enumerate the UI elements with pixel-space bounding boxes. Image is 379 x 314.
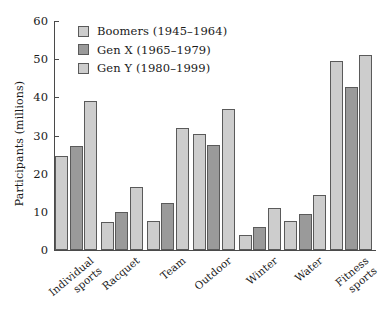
x-axis-line <box>54 250 376 251</box>
bar <box>299 214 312 250</box>
legend-swatch-icon <box>78 26 89 37</box>
y-tick-label: 10 <box>22 205 48 219</box>
bar <box>161 203 174 250</box>
legend-item: Gen Y (1980–1999) <box>78 59 227 78</box>
y-tick-label: 20 <box>22 167 48 181</box>
bar <box>84 101 97 250</box>
bar <box>130 187 143 250</box>
legend-item: Gen X (1965–1979) <box>78 41 227 60</box>
legend-swatch-icon <box>78 63 89 74</box>
legend-label: Gen X (1965–1979) <box>97 43 211 57</box>
bar <box>239 235 252 250</box>
bar <box>330 61 343 250</box>
bar <box>345 87 358 250</box>
bar <box>284 221 297 250</box>
legend-swatch-icon <box>78 44 89 55</box>
bar <box>193 134 206 250</box>
chart-legend: Boomers (1945–1964)Gen X (1965–1979)Gen … <box>78 22 227 78</box>
y-tick-label: 40 <box>22 90 48 104</box>
bar-chart: Participants (millions) 0102030405060 In… <box>0 0 379 314</box>
y-tick-label: 60 <box>22 14 48 28</box>
y-tick-label: 50 <box>22 52 48 66</box>
bar <box>176 128 189 250</box>
bar <box>253 227 266 250</box>
x-category-label: Individual sports <box>34 254 104 314</box>
y-tick-mark <box>54 250 59 251</box>
legend-label: Boomers (1945–1964) <box>97 24 227 38</box>
y-tick-label: 30 <box>22 129 48 143</box>
bar <box>101 222 114 250</box>
y-axis-label: Participants (millions) <box>13 64 26 224</box>
bar <box>222 109 235 250</box>
legend-label: Gen Y (1980–1999) <box>97 61 210 75</box>
bar <box>70 146 83 250</box>
bar <box>207 145 220 250</box>
bar <box>115 212 128 250</box>
bar <box>147 221 160 250</box>
bar <box>55 156 68 250</box>
legend-item: Boomers (1945–1964) <box>78 22 227 41</box>
bar <box>268 208 281 250</box>
bar <box>359 55 372 250</box>
y-tick-label: 0 <box>22 243 48 257</box>
bar <box>313 195 326 250</box>
